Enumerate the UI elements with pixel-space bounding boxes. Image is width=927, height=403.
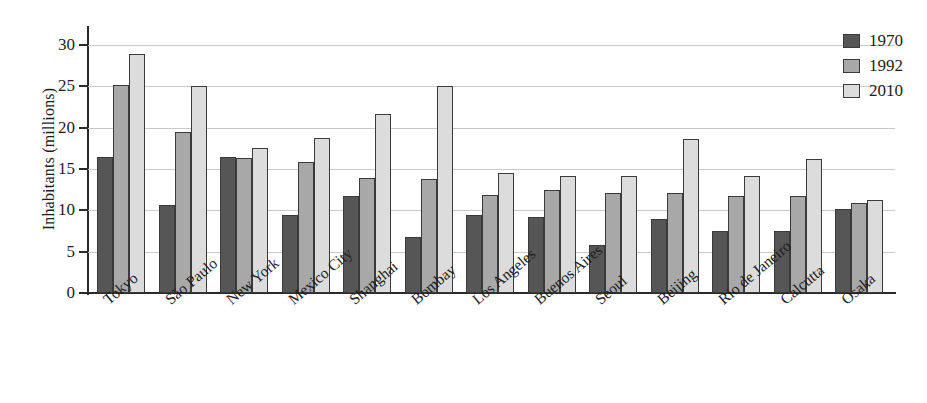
legend-label: 2010 — [869, 82, 903, 99]
bar — [97, 157, 113, 293]
bar — [282, 215, 298, 293]
x-axis-label: Rio de Janeiro — [716, 296, 717, 297]
x-axis-label: Shanghai — [347, 296, 348, 297]
bar — [129, 54, 145, 293]
x-axis-label: Seoul — [593, 296, 594, 297]
y-tick-mark — [79, 44, 88, 46]
bar — [113, 85, 129, 293]
bar — [220, 157, 236, 293]
y-tick-mark — [79, 85, 88, 87]
y-tick-mark — [79, 251, 88, 253]
x-axis-label: São Paulo — [163, 296, 164, 297]
bar-group — [159, 45, 209, 293]
legend-item: 1970 — [843, 28, 903, 53]
legend-label: 1992 — [869, 57, 903, 74]
bar-group — [466, 45, 516, 293]
y-tick-label: 10 — [58, 200, 75, 220]
bar — [651, 219, 667, 293]
x-axis-label: Calcutta — [778, 296, 779, 297]
bar-group — [712, 45, 762, 293]
bar — [835, 209, 851, 293]
legend-item: 2010 — [843, 78, 903, 103]
y-tick-label: 20 — [58, 117, 75, 137]
legend: 197019922010 — [843, 28, 903, 103]
x-axis-label: Buenos Aires — [532, 296, 533, 297]
bar — [621, 176, 637, 293]
legend-label: 1970 — [869, 32, 903, 49]
bar-group — [282, 45, 332, 293]
x-axis-label: Los Angeles — [470, 296, 471, 297]
y-tick-label: 0 — [67, 283, 76, 303]
x-axis-label: Tokyo — [101, 296, 102, 297]
y-tick-label: 30 — [58, 35, 75, 55]
y-tick-label: 5 — [67, 241, 76, 261]
y-tick-label: 15 — [58, 159, 75, 179]
bar-group — [220, 45, 270, 293]
bar — [159, 205, 175, 293]
x-axis-label: Beijing — [655, 296, 656, 297]
x-axis-label: Bombay — [409, 296, 410, 297]
bar — [175, 132, 191, 293]
bar-group — [651, 45, 701, 293]
bar-group — [405, 45, 455, 293]
y-tick-mark — [79, 127, 88, 129]
y-tick-label: 25 — [58, 76, 75, 96]
y-tick-mark — [79, 292, 88, 294]
bar — [466, 215, 482, 293]
legend-swatch — [843, 84, 860, 98]
y-tick-mark — [79, 209, 88, 211]
x-axis-label: Osaka — [839, 296, 840, 297]
legend-item: 1992 — [843, 53, 903, 78]
x-axis-label: Mexico City — [286, 296, 287, 297]
y-axis-title: Inhabitants (millions) — [40, 44, 58, 274]
y-tick-mark — [79, 168, 88, 170]
population-bar-chart: Inhabitants (millions) 051015202530 Toky… — [0, 0, 927, 403]
legend-swatch — [843, 34, 860, 48]
legend-swatch — [843, 59, 860, 73]
bar-group — [97, 45, 147, 293]
x-axis-label: New York — [224, 296, 225, 297]
